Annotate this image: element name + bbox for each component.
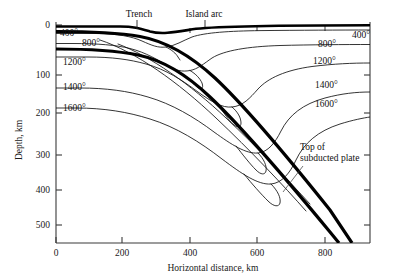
cross-section-svg: 0 100 200 300 400 500 0 200 400 60 [0, 0, 410, 278]
x-tick-label-600: 600 [250, 248, 265, 258]
isotherm-labels-left: 400° 800° 1200° 1400° 1600° [60, 28, 100, 113]
y-tick-label-100: 100 [36, 70, 51, 80]
isotherm-label-left-1400: 1400° [63, 82, 86, 92]
y-tick-label-300: 300 [36, 150, 51, 160]
isotherm-label-right-400: 400° [352, 30, 370, 40]
isotherm-labels-right: 400° 800° 1200° 1400° 1600° [313, 30, 370, 109]
y-tick-group [56, 25, 62, 225]
isotherm-1600-loop [244, 174, 280, 206]
isotherm-label-left-400: 400° [60, 28, 78, 38]
y-tick-label-500: 500 [36, 220, 51, 230]
x-tick-label-200: 200 [115, 248, 130, 258]
island-arc-label: Island arc [185, 9, 222, 19]
isotherm-label-right-1600: 1600° [315, 99, 338, 109]
surface-feature-labels: Trench Island arc [126, 9, 223, 29]
isotherm-label-left-1600: 1600° [63, 103, 86, 113]
y-tick-labels: 0 100 200 300 400 500 [36, 20, 51, 230]
subducted-plate-base [56, 49, 339, 243]
isotherm-label-right-1400: 1400° [315, 80, 338, 90]
isotherm-label-right-800: 800° [318, 39, 336, 49]
isotherm-label-right-1200: 1200° [313, 56, 336, 66]
y-tick-label-200: 200 [36, 108, 51, 118]
right-tick-group [364, 75, 370, 225]
figure-container: 0 100 200 300 400 500 0 200 400 60 [0, 0, 410, 278]
x-tick-labels: 0 200 400 600 800 [54, 248, 333, 258]
x-tick-group [56, 237, 325, 243]
x-tick-label-0: 0 [54, 248, 59, 258]
x-axis-title: Horizontal distance, km [167, 263, 259, 273]
isotherm-label-left-800: 800° [82, 38, 100, 48]
plate-annotation-line2: subducted plate [300, 153, 359, 163]
y-tick-label-400: 400 [36, 185, 51, 195]
x-tick-label-400: 400 [183, 248, 198, 258]
y-tick-label-0: 0 [45, 20, 50, 30]
y-axis-title: Depth, km [14, 119, 24, 160]
x-tick-label-800: 800 [318, 248, 333, 258]
isotherm-label-left-1200: 1200° [63, 57, 86, 67]
plate-annotation-line1: Top of [300, 142, 326, 152]
trench-label: Trench [126, 9, 153, 19]
